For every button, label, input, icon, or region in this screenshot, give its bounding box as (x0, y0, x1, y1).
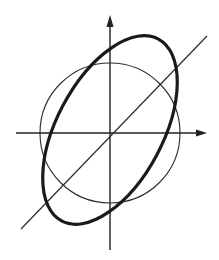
geometry-figure (0, 0, 219, 260)
figure-root (0, 0, 219, 260)
